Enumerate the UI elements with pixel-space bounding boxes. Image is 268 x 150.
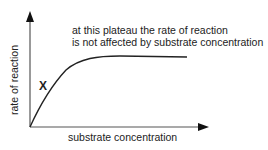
chart-canvas <box>0 0 268 150</box>
x-axis-arrow-icon <box>198 123 209 131</box>
plateau-annotation-line2: is not affected by substrate concentrati… <box>72 36 263 49</box>
point-x-label: X <box>39 79 47 93</box>
rate-curve <box>30 56 187 127</box>
y-axis-label: rate of reaction <box>8 42 20 118</box>
y-axis-arrow-icon <box>26 11 34 22</box>
x-axis-label: substrate concentration <box>68 131 177 144</box>
